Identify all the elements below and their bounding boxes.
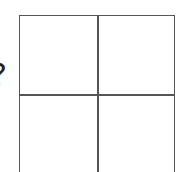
grid-cell-bottom-left bbox=[20, 95, 97, 172]
two-by-two-grid bbox=[19, 15, 175, 172]
grid-cell-top-left bbox=[20, 16, 97, 94]
diagram-canvas: ? bbox=[0, 0, 195, 172]
grid-cell-top-right bbox=[98, 16, 173, 94]
partial-question-mark-label: ? bbox=[0, 60, 7, 90]
grid-cell-bottom-right bbox=[98, 95, 173, 172]
grid-horizontal-divider bbox=[20, 94, 174, 96]
